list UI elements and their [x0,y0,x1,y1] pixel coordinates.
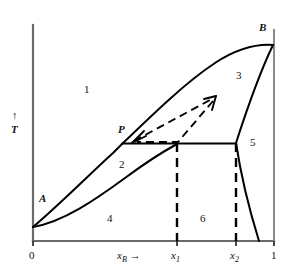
x-tick-label-x2: x2 [230,250,239,264]
region-label-4: 4 [107,213,113,224]
region-label-2: 2 [119,159,125,170]
solidus-a-to-x1-curve [33,144,177,227]
region-label-6: 6 [200,213,206,224]
region-label-1: 1 [84,84,90,95]
y-axis-title: T [11,124,18,135]
x-tick-label-0: 0 [29,250,35,261]
x-tick-label-x1: x1 [171,250,180,264]
solidus-b-to-point5-curve [236,45,273,143]
region-label-3: 3 [236,70,242,81]
dashed-process-arrow-down-shaft [137,101,213,142]
region-label-5: 5 [250,137,256,148]
point-label-b: B [259,22,266,33]
liquidus-p-to-b-curve [122,45,273,144]
point-label-p: P [118,124,125,135]
vertical-dashed-group [177,143,236,241]
axis-group [33,25,274,241]
phase-diagram-figure: ↑ T 1 2 3 4 5 6 A B P 0 xB→ x1 x2 1 [0,0,289,274]
x-tick-label-1: 1 [271,250,277,261]
solvus-point5-down-curve [236,143,259,241]
point-label-a: A [39,193,46,204]
x-tick-label-x2-sub: 2 [235,255,239,264]
x-axis-arrow-icon: → [130,249,141,261]
x-axis-title-sub: B [122,255,127,264]
x-tick-label-x1-sub: 1 [176,255,180,264]
phase-diagram-svg [0,0,289,274]
y-axis-arrow-icon: ↑ [12,110,18,121]
x-axis-title: xB→ [117,250,141,264]
